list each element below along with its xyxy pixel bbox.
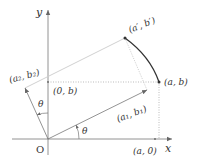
- point-zero-b: [47, 81, 49, 83]
- rotation-arc: [125, 38, 159, 82]
- label-zero-b: (0, b): [53, 86, 78, 96]
- vector-a2-b2: [25, 88, 48, 139]
- angle-arc-x: [76, 125, 79, 139]
- diagram-svg: y x O (a, b) (a, 0) (0, b) (a₁, b₁) (a₂,…: [0, 0, 198, 166]
- angle-arc-y: [37, 113, 48, 115]
- point-a-0: [154, 138, 156, 140]
- theta-label-x: θ: [82, 126, 88, 136]
- label-a-0: (a, 0): [133, 146, 157, 156]
- point-a-b: [158, 81, 161, 84]
- label-a1-b1: (a₁, b₁): [115, 104, 148, 124]
- x-axis-label: x: [165, 142, 172, 155]
- label-aprime-bprime: (a′, b′): [127, 15, 157, 35]
- origin-label: O: [36, 144, 44, 155]
- rotation-diagram: y x O (a, b) (a, 0) (0, b) (a₁, b₁) (a₂,…: [0, 0, 198, 166]
- label-a-b: (a, b): [164, 77, 188, 87]
- point-aprime-bprime: [124, 37, 127, 40]
- parallelogram-top-line: [25, 38, 125, 88]
- y-axis-label: y: [35, 6, 43, 19]
- theta-label-y: θ: [38, 99, 44, 109]
